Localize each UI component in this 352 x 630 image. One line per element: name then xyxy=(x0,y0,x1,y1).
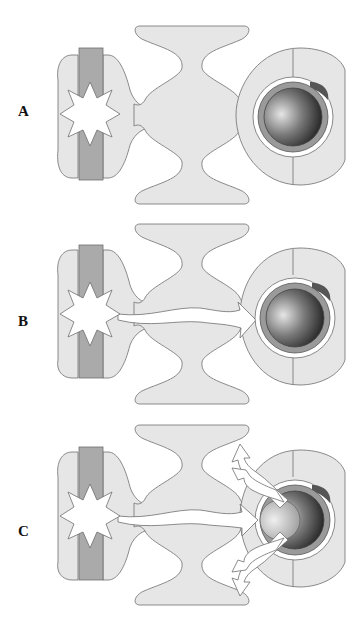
panel-a: A xyxy=(0,0,352,210)
panel-b: B xyxy=(0,210,352,420)
burst-star-icon xyxy=(60,484,120,548)
burst-star-icon xyxy=(60,282,120,346)
sphere xyxy=(253,77,333,157)
panel-c-drawing xyxy=(0,420,352,630)
sphere xyxy=(255,278,335,358)
central-tissue xyxy=(134,26,250,204)
burst-star-icon xyxy=(60,82,120,146)
panel-c: C xyxy=(0,420,352,630)
panel-a-drawing xyxy=(0,0,352,210)
panel-b-drawing xyxy=(0,210,352,420)
